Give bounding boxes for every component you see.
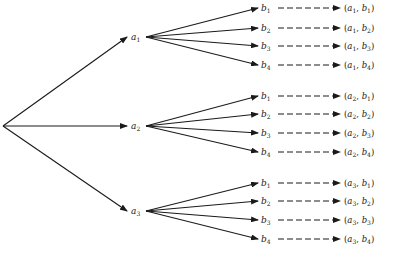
pair-a1-b2: (a1, b2): [344, 23, 374, 36]
node-a3-b4: b4: [261, 234, 271, 247]
node-a1: a1: [131, 32, 140, 45]
edge-a2-to-b1: [146, 96, 258, 126]
node-a2-b4: b4: [261, 147, 271, 160]
node-a3: a3: [131, 206, 140, 219]
pair-a2-b4: (a2, b4): [344, 147, 374, 160]
pair-a3-b4: (a3, b4): [344, 234, 374, 247]
node-a3-b3: b3: [261, 215, 271, 228]
node-a2-b3: b3: [261, 128, 271, 141]
node-a1-b4: b4: [261, 60, 271, 73]
pair-a3-b3: (a3, b3): [344, 215, 374, 228]
pair-a1-b4: (a1, b4): [344, 60, 374, 73]
pair-a1-b3: (a1, b3): [344, 41, 374, 54]
node-a2-b1: b1: [261, 91, 271, 104]
edge-root-to-a1: [3, 37, 127, 126]
pair-a3-b2: (a3, b2): [344, 196, 374, 209]
pair-a2-b2: (a2, b2): [344, 109, 374, 122]
edge-a3-to-b2: [146, 201, 258, 211]
pair-a2-b3: (a2, b3): [344, 128, 374, 141]
pair-a1-b1: (a1, b1): [344, 3, 374, 16]
node-a2-b2: b2: [261, 109, 271, 122]
node-a2: a2: [131, 121, 140, 134]
node-a1-b1: b1: [261, 3, 271, 16]
pair-a2-b1: (a2, b1): [344, 91, 374, 104]
tree-diagram: [0, 0, 395, 254]
node-a1-b3: b3: [261, 41, 271, 54]
edge-a2-to-b2: [146, 114, 258, 126]
node-a3-b1: b1: [261, 178, 271, 191]
node-a1-b2: b2: [261, 23, 271, 36]
node-a3-b2: b2: [261, 196, 271, 209]
edge-a3-to-b1: [146, 183, 258, 211]
pair-a3-b1: (a3, b1): [344, 178, 374, 191]
edge-root-to-a3: [3, 126, 127, 211]
